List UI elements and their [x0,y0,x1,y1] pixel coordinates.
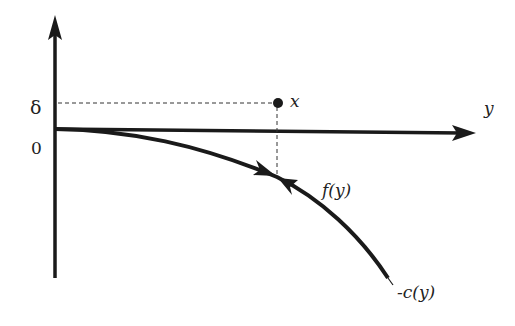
curve-f-c [55,129,388,278]
diagram-canvas: δ 0 x y f(y) -c(y) [0,0,515,326]
zero-label: 0 [31,140,42,157]
c-curve-label: -c(y) [397,284,435,301]
diagram-graphic [0,0,515,326]
point-label: x [290,93,300,110]
horizontal-axis-label: y [484,100,494,117]
f-curve-label: f(y) [322,182,351,199]
point-x [273,98,283,108]
delta-label: δ [30,98,41,117]
curve-tail [388,278,393,285]
